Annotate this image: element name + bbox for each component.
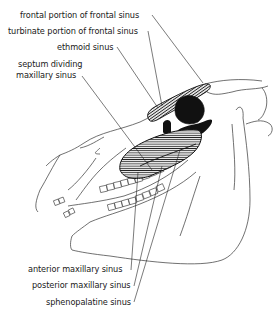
label-frontal-portion-of-frontal-sinus: frontal portion of frontal sinus <box>20 10 139 20</box>
label-ethmoid-sinus: ethmoid sinus <box>57 42 113 52</box>
label-turbinate-portion-of-frontal-sinus: turbinate portion of frontal sinus <box>8 26 138 36</box>
label-septum-dividing-line1: septum dividing <box>18 59 82 69</box>
label-septum-dividing-line2: maxillary sinus <box>16 70 76 80</box>
horse-head-sinus-diagram: frontal portion of frontal sinus turbina… <box>0 0 278 313</box>
label-posterior-maxillary-sinus: posterior maxillary sinus <box>32 280 131 290</box>
label-sphenopalatine-sinus: sphenopalatine sinus <box>46 297 131 307</box>
label-anterior-maxillary-sinus: anterior maxillary sinus <box>28 264 122 274</box>
ethmoid-sinus-shape <box>175 96 204 125</box>
